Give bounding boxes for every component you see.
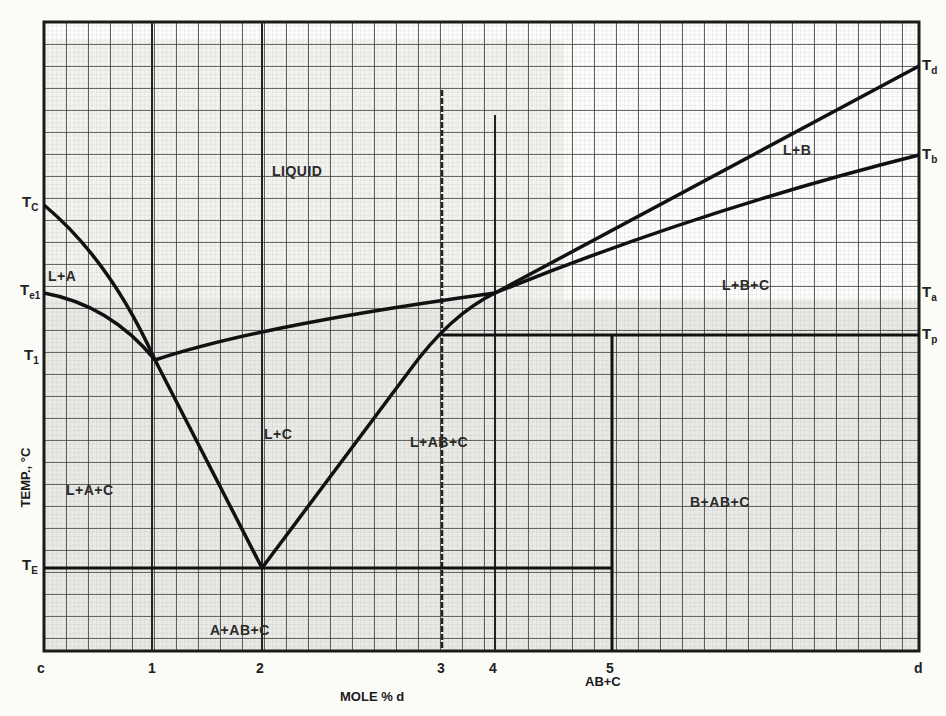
region-L-A: L+A <box>48 268 76 284</box>
x-tick-2: 2 <box>256 660 264 676</box>
region-A-AB-C: A+AB+C <box>210 622 270 638</box>
region-liquid: LIQUID <box>272 163 322 179</box>
x-tick-3: 3 <box>437 660 445 676</box>
x-tick-c: c <box>37 660 45 676</box>
temp-label-Td: Td <box>922 56 937 76</box>
region-L-AB-C: L+AB+C <box>410 434 468 450</box>
temp-label-Ta: Ta <box>922 283 937 303</box>
region-B-AB-C: B+AB+C <box>690 494 750 510</box>
temp-label-Tp: Tp <box>922 325 937 345</box>
temp-label-Tb: Tb <box>922 145 937 165</box>
x-sublabel-compound: AB+C <box>585 674 621 689</box>
x-tick-1: 1 <box>148 660 156 676</box>
temp-label-Tc: TC <box>22 193 38 213</box>
temp-label-Te1: Te1 <box>20 281 40 301</box>
temp-label-T1: T1 <box>24 346 39 366</box>
region-L-C: L+C <box>264 426 292 442</box>
temp-label-TE: TE <box>22 556 38 576</box>
x-tick-d: d <box>914 660 923 676</box>
region-L-B: L+B <box>783 142 811 158</box>
region-L-A-C: L+A+C <box>66 482 114 498</box>
x-axis-label: MOLE % d <box>340 689 404 704</box>
y-axis-label: TEMP., °C <box>18 433 33 523</box>
region-L-B-C: L+B+C <box>722 277 770 293</box>
x-tick-4: 4 <box>489 660 497 676</box>
phase-diagram-plot <box>0 0 946 716</box>
